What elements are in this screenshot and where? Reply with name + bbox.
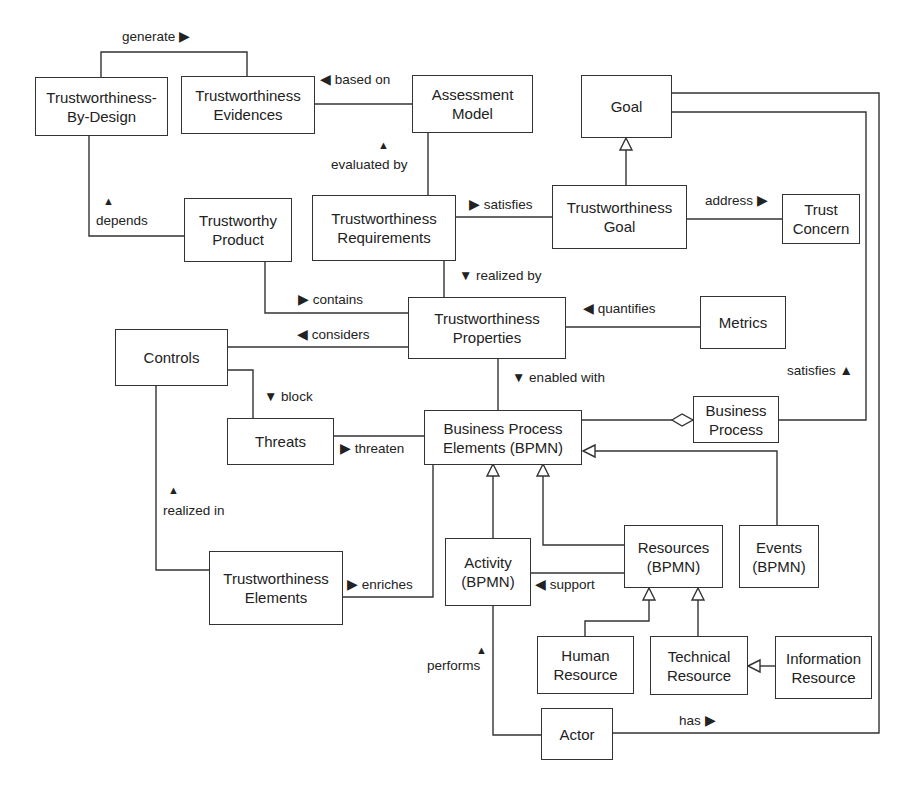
label-based-on: ◀ based on: [320, 71, 390, 87]
node-business-process-elements[interactable]: Business Process Elements (BPMN): [424, 410, 582, 465]
arrow-up-evaluated: ▲: [378, 139, 389, 151]
label-quantifies: ◀ quantifies: [583, 300, 656, 316]
node-trustworthiness-evidences[interactable]: Trustworthiness Evidences: [181, 76, 315, 134]
node-trustworthiness-elements[interactable]: Trustworthiness Elements: [209, 551, 343, 625]
arrow-up-realized-in: ▲: [168, 484, 179, 496]
label-satisfies-process: satisfies ▲: [787, 363, 853, 378]
label-enriches: ▶ enriches: [347, 576, 413, 592]
arrow-up-depends: ▲: [103, 195, 114, 207]
label-considers: ◀ considers: [297, 326, 370, 342]
label-performs: performs: [427, 658, 480, 673]
label-depends: depends: [96, 213, 148, 228]
label-evaluated-by: evaluated by: [331, 157, 408, 172]
node-assessment-model[interactable]: Assessment Model: [412, 75, 533, 133]
node-trust-concern[interactable]: Trust Concern: [782, 194, 860, 244]
label-enabled-with: ▼ enabled with: [512, 370, 605, 385]
node-threats[interactable]: Threats: [227, 418, 334, 465]
node-trustworthiness-goal[interactable]: Trustworthiness Goal: [552, 185, 687, 249]
node-trustworthiness-requirements[interactable]: Trustworthiness Requirements: [312, 195, 456, 261]
node-trustworthy-product[interactable]: Trustworthy Product: [184, 198, 292, 262]
label-has: has ▶: [679, 712, 716, 728]
label-threaten: ▶ threaten: [340, 440, 404, 456]
label-realized-by: ▼ realized by: [459, 268, 541, 283]
node-actor[interactable]: Actor: [541, 708, 613, 760]
node-trustworthiness-by-design[interactable]: Trustworthiness- By-Design: [35, 77, 168, 136]
node-information-resource[interactable]: Information Resource: [775, 636, 872, 699]
arrow-up-performs: ▲: [476, 644, 487, 656]
label-contains: ▶ contains: [298, 291, 363, 307]
node-resources[interactable]: Resources (BPMN): [624, 525, 723, 588]
label-satisfies-requirements: ▶ satisfies: [469, 196, 533, 212]
label-realized-in: realized in: [163, 503, 225, 518]
node-technical-resource[interactable]: Technical Resource: [650, 636, 748, 695]
node-metrics[interactable]: Metrics: [700, 296, 786, 349]
label-block: ▼ block: [264, 389, 313, 404]
label-address: address ▶: [705, 192, 768, 208]
node-controls[interactable]: Controls: [115, 329, 228, 386]
node-trustworthiness-properties[interactable]: Trustworthiness Properties: [408, 297, 566, 359]
node-goal[interactable]: Goal: [581, 75, 672, 138]
node-events[interactable]: Events (BPMN): [739, 525, 819, 588]
node-business-process[interactable]: Business Process: [693, 396, 779, 443]
label-support: ◀ support: [535, 576, 595, 592]
node-human-resource[interactable]: Human Resource: [537, 636, 634, 694]
label-generate: generate ▶: [122, 28, 190, 44]
node-activity[interactable]: Activity (BPMN): [445, 538, 531, 606]
